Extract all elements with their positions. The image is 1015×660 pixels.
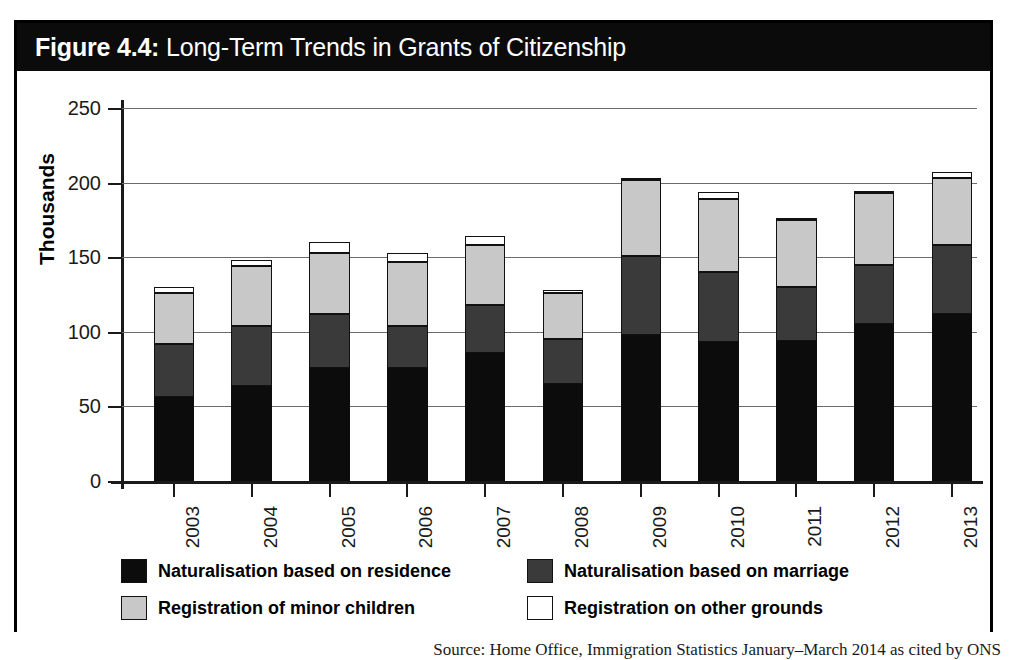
bar-segment [776,220,816,287]
bar-segment [465,236,505,245]
bar-segment [776,287,816,341]
bar-segment [698,199,738,272]
legend-swatch-icon [527,559,553,583]
bar-segment [698,342,738,481]
page-title: Figure 4.4: Long-Term Trends in Grants o… [17,33,626,62]
bar-segment [621,335,661,481]
bar-segment [854,265,894,325]
y-axis-tick [108,481,122,483]
y-axis-tick [108,332,122,334]
y-axis-tick-label: 50 [79,395,101,418]
bar-segment [231,266,271,326]
bar-segment [698,272,738,342]
bar-group [776,218,816,481]
bar-segment [309,314,349,368]
x-axis-tick [873,484,875,497]
legend-label: Registration on other grounds [564,598,823,619]
bar-segment [465,305,505,353]
x-axis-tick [406,484,408,497]
x-axis-tick-label: 2009 [649,506,671,548]
bar-segment [387,262,427,326]
bar-segment [387,326,427,368]
bar-segment [543,293,583,339]
figure-title-bar: Figure 4.4: Long-Term Trends in Grants o… [17,23,990,71]
figure-frame: Figure 4.4: Long-Term Trends in Grants o… [14,20,993,632]
bar-segment [154,344,194,398]
x-axis-tick-label: 2006 [415,506,437,548]
bar-segment [465,245,505,305]
y-axis-tick-label: 150 [68,246,101,269]
legend-label: Naturalisation based on residence [158,561,451,582]
bar-segment [154,293,194,344]
figure-title: Long-Term Trends in Grants of Citizenshi… [166,33,626,61]
x-axis-tick [795,484,797,497]
legend-item: Naturalisation based on residence [121,559,515,583]
y-axis-tick [108,406,122,408]
x-axis-tick [329,484,331,497]
bar-segment [543,339,583,384]
chart-container: Thousands 050100150200250 20032004200520… [17,71,990,635]
x-axis-tick [640,484,642,497]
bar-series-layer [121,108,977,481]
x-axis-line [111,481,983,484]
bar-group [543,290,583,481]
bar-segment [932,245,972,314]
legend-item: Registration of minor children [121,596,515,620]
chart-legend: Naturalisation based on residenceNatural… [121,559,921,620]
x-axis-tick [484,484,486,497]
bar-group [387,253,427,481]
x-axis-tick-label: 2012 [882,506,904,548]
bar-segment [309,368,349,481]
y-axis-tick-label: 200 [68,171,101,194]
x-axis-tick [951,484,953,497]
bar-segment [932,178,972,245]
bar-segment [231,326,271,386]
x-axis-tick-label: 2011 [804,506,826,547]
legend-label: Naturalisation based on marriage [564,561,849,582]
bar-segment [698,192,738,199]
bar-segment [854,193,894,265]
legend-item: Naturalisation based on marriage [527,559,921,583]
bar-group [854,191,894,481]
y-axis-tick [108,108,122,110]
x-axis-tick [562,484,564,497]
bar-segment [387,368,427,481]
bar-segment [854,324,894,481]
bar-segment [154,397,194,481]
y-axis-tick-label: 100 [68,320,101,343]
legend-swatch-icon [527,596,553,620]
bar-group [309,242,349,481]
bar-segment [465,353,505,481]
y-axis-tick-label: 0 [90,470,101,493]
bar-group [154,287,194,481]
bar-group [698,192,738,481]
x-axis-tick-label: 2008 [571,506,593,548]
x-axis-tick-label: 2005 [338,506,360,548]
bar-segment [932,314,972,481]
bar-segment [543,384,583,481]
x-axis-tick-label: 2013 [960,506,982,548]
legend-item: Registration on other grounds [527,596,921,620]
y-axis-tick-label: 250 [68,97,101,120]
bar-segment [621,256,661,335]
bar-group [621,178,661,481]
bar-group [231,260,271,481]
bar-group [465,236,505,481]
figure-number: Figure 4.4: [35,33,159,61]
bar-segment [231,386,271,481]
bar-segment [309,253,349,314]
x-axis-tick [173,484,175,497]
y-axis-title: Thousands [35,139,59,279]
y-axis-tick [108,257,122,259]
legend-label: Registration of minor children [158,598,415,619]
bar-segment [387,253,427,262]
x-axis-tick [251,484,253,497]
bar-segment [776,341,816,481]
source-caption: Source: Home Office, Immigration Statist… [0,640,1015,660]
x-axis-tick [718,484,720,497]
bar-group [932,172,972,481]
x-axis-tick-label: 2010 [727,506,749,548]
x-axis-tick-label: 2007 [493,506,515,548]
x-axis-tick-label: 2003 [182,506,204,548]
x-axis-tick-label: 2004 [260,506,282,548]
